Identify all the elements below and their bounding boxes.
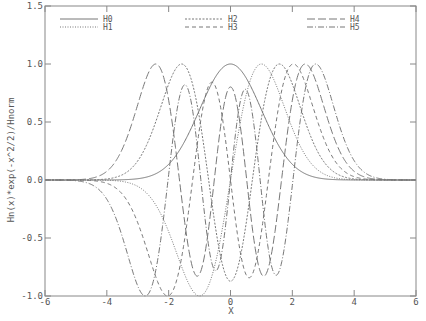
y-tick-label: -1.0 [21, 291, 43, 301]
y-tick-label: 0.0 [27, 175, 43, 185]
x-tick-label: 4 [351, 297, 356, 307]
legend: H0H1H2H3H4H5 [60, 15, 360, 32]
x-tick-label: -2 [163, 297, 174, 307]
y-tick-label: 1.5 [27, 1, 43, 11]
hermite-chart: -6-4-20246 1.51.00.50.0-0.5-1.0 X Hn(x)*… [0, 0, 426, 321]
y-tick-label: 1.0 [27, 59, 43, 69]
y-axis: 1.51.00.50.0-0.5-1.0 [21, 1, 416, 301]
legend-label-h1: H1 [103, 23, 113, 32]
curve-h2 [45, 64, 416, 281]
y-tick-label: 0.5 [27, 117, 43, 127]
plot-frame [45, 6, 416, 296]
plot-curves [45, 64, 416, 296]
x-tick-label: 6 [413, 297, 418, 307]
x-axis: -6-4-20246 [40, 6, 419, 307]
y-axis-label: Hn(x)*exp(-x^2/2)/Hnorm [6, 98, 16, 223]
curve-h4 [45, 64, 416, 276]
y-tick-label: -0.5 [21, 233, 43, 243]
legend-label-h5: H5 [350, 23, 360, 32]
legend-label-h3: H3 [228, 23, 238, 32]
x-axis-label: X [228, 306, 234, 316]
x-tick-label: -4 [101, 297, 112, 307]
x-tick-label: 2 [290, 297, 295, 307]
curve-h0 [45, 64, 416, 180]
